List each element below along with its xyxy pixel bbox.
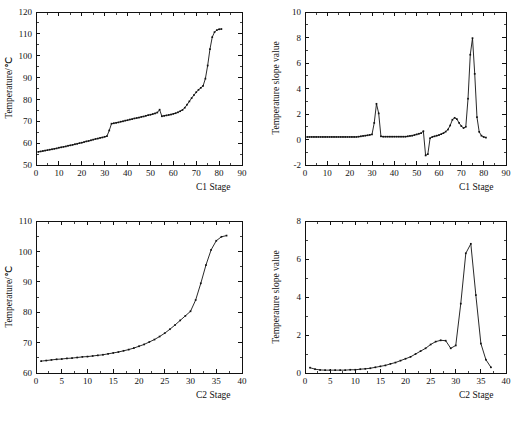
- y-tick-label: 8: [297, 33, 302, 43]
- data-point: [333, 136, 335, 138]
- data-point: [458, 122, 460, 124]
- data-point: [315, 136, 317, 138]
- x-tick-label: 70: [192, 168, 202, 178]
- data-point: [102, 137, 104, 139]
- data-point: [92, 139, 94, 141]
- x-tick-label: 70: [457, 168, 467, 178]
- x-tick-label: 30: [186, 376, 196, 386]
- x-tick-label: 20: [345, 168, 355, 178]
- data-point: [375, 366, 377, 368]
- data-point: [182, 109, 184, 111]
- data-point: [367, 134, 369, 136]
- data-point: [465, 252, 467, 254]
- data-point: [398, 136, 400, 138]
- data-point: [97, 138, 99, 140]
- data-point: [443, 132, 445, 134]
- data-point: [76, 143, 78, 145]
- data-point: [45, 360, 47, 362]
- x-tick-label: 20: [135, 376, 145, 386]
- data-point: [211, 36, 213, 38]
- y-tick-label: 2: [297, 330, 302, 340]
- data-series-markers: [37, 28, 222, 153]
- y-tick-label: 120: [19, 7, 33, 17]
- data-point: [111, 123, 113, 125]
- data-point: [485, 359, 487, 361]
- tick-labels: 051015202530354060708090100110: [19, 216, 248, 386]
- y-tick-label: 4: [297, 84, 302, 94]
- data-point: [360, 135, 362, 137]
- data-point: [373, 122, 375, 124]
- data-point: [326, 136, 328, 138]
- x-tick-label: 30: [451, 376, 461, 386]
- data-point: [56, 358, 58, 360]
- data-point: [72, 144, 74, 146]
- data-point: [118, 122, 120, 124]
- data-point: [159, 336, 161, 338]
- data-point: [469, 54, 471, 56]
- data-point: [483, 136, 485, 138]
- data-point: [152, 113, 154, 115]
- data-series-markers: [306, 37, 486, 156]
- data-point: [138, 345, 140, 347]
- data-point: [123, 350, 125, 352]
- chart-c1-slope: 0102030405060708090-20246810 C1 Stage Te…: [263, 0, 525, 208]
- data-point: [463, 127, 465, 129]
- x-tick-label: 60: [169, 168, 179, 178]
- y-axis-label: Temperature/℃: [4, 266, 14, 328]
- data-point: [470, 243, 472, 245]
- data-point: [344, 369, 346, 371]
- data-point: [407, 135, 409, 137]
- x-tick-label: 90: [502, 168, 512, 178]
- x-tick-label: 0: [303, 168, 308, 178]
- data-point: [319, 369, 321, 371]
- x-tick-label: 20: [401, 376, 411, 386]
- data-point: [353, 136, 355, 138]
- data-point: [382, 136, 384, 138]
- data-point: [112, 352, 114, 354]
- tick-marks: [36, 12, 242, 165]
- data-point: [124, 120, 126, 122]
- y-tick-label: 80: [23, 307, 33, 317]
- data-point: [465, 126, 467, 128]
- data-point: [478, 131, 480, 133]
- data-point: [166, 115, 168, 117]
- x-tick-label: 40: [238, 376, 248, 386]
- data-point: [191, 97, 193, 99]
- data-point: [88, 140, 90, 142]
- data-point: [306, 136, 308, 138]
- data-point: [95, 138, 97, 140]
- x-tick-label: 0: [34, 168, 39, 178]
- data-series-line: [307, 38, 486, 155]
- data-point: [415, 353, 417, 355]
- x-axis-label: C1 Stage: [196, 182, 231, 192]
- data-point: [81, 142, 83, 144]
- data-point: [147, 114, 149, 116]
- data-point: [400, 360, 402, 362]
- data-point: [456, 118, 458, 120]
- data-point: [215, 240, 217, 242]
- data-point: [207, 65, 209, 67]
- data-point: [369, 367, 371, 369]
- panel-bottom-right: 051015202530354002468 C2 Stage Temperatu…: [263, 207, 525, 415]
- data-point: [90, 139, 92, 141]
- data-point: [122, 120, 124, 122]
- data-point: [414, 134, 416, 136]
- data-point: [311, 136, 313, 138]
- y-tick-label: 70: [23, 116, 33, 126]
- x-tick-label: 40: [390, 168, 400, 178]
- y-tick-label: 90: [23, 277, 33, 287]
- data-point: [177, 111, 179, 113]
- x-tick-label: 80: [479, 168, 489, 178]
- data-point: [198, 89, 200, 91]
- data-point: [431, 136, 433, 138]
- data-point: [438, 134, 440, 136]
- x-tick-label: 15: [109, 376, 119, 386]
- data-point: [37, 151, 39, 153]
- data-point: [425, 155, 427, 157]
- data-point: [416, 134, 418, 136]
- data-point: [186, 104, 188, 106]
- data-point: [170, 114, 172, 116]
- data-point: [490, 366, 492, 368]
- tick-labels: 0102030405060708090-20246810: [292, 7, 511, 178]
- data-point: [216, 29, 218, 31]
